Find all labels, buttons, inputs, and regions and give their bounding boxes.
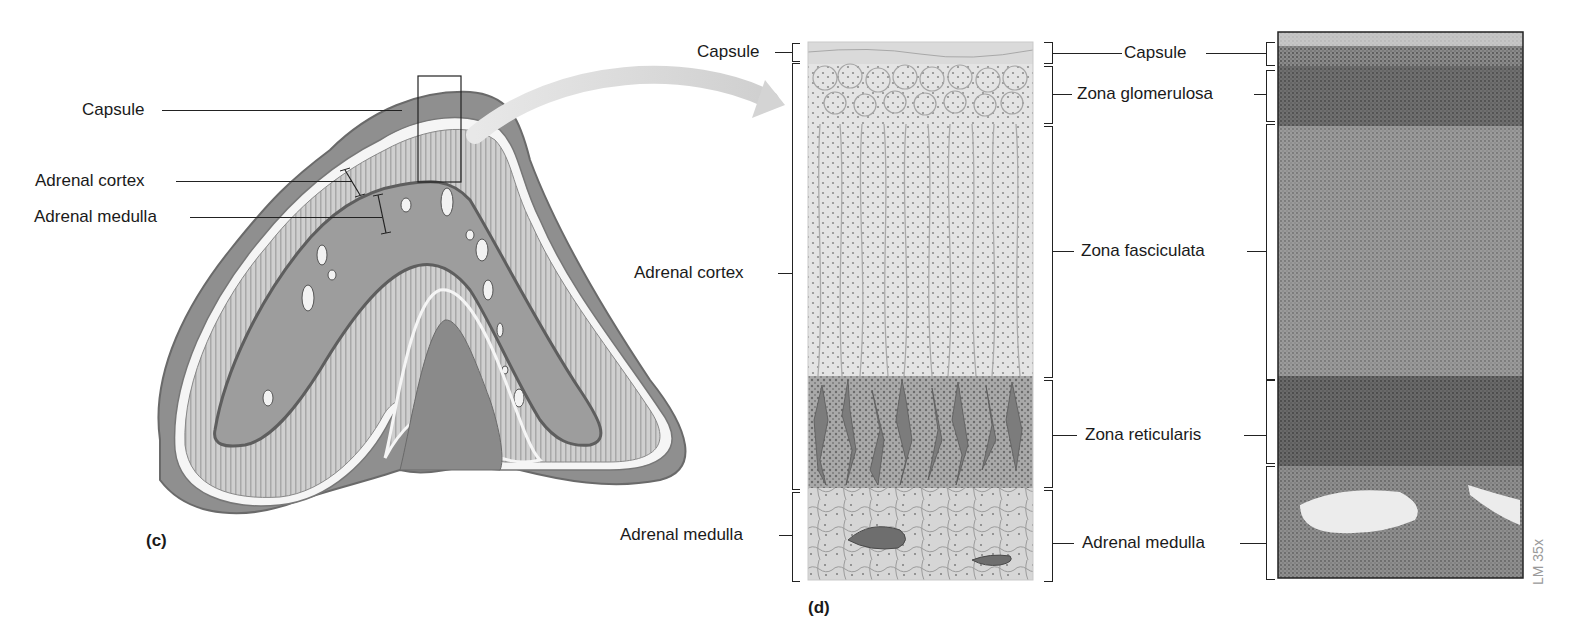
label-capsule-zone: Capsule <box>1124 43 1186 63</box>
bracket-glomerulosa-drawing <box>1044 66 1053 124</box>
bracket-medulla-left <box>792 492 800 582</box>
label-capsule-c: Capsule <box>82 100 144 120</box>
leader-fasciculata-a <box>1052 251 1074 252</box>
leader-line-cortex-c <box>176 181 352 182</box>
panel-letter-d: (d) <box>808 598 830 618</box>
leader-line-medulla-c <box>190 217 382 218</box>
tick-capsule-left <box>775 52 792 53</box>
label-zona-reticularis: Zona reticularis <box>1085 425 1201 445</box>
label-zona-glomerulosa: Zona glomerulosa <box>1077 84 1213 104</box>
label-adrenal-cortex-c: Adrenal cortex <box>35 171 145 191</box>
label-adrenal-cortex-d: Adrenal cortex <box>634 263 744 283</box>
label-adrenal-medulla-zone: Adrenal medulla <box>1082 533 1205 553</box>
leader-glomerulosa-b <box>1254 94 1266 95</box>
label-capsule-d-left: Capsule <box>697 42 759 62</box>
magnification-label: LM 35x <box>1530 539 1546 585</box>
label-adrenal-medulla-d-left: Adrenal medulla <box>620 525 743 545</box>
label-zona-fasciculata: Zona fasciculata <box>1081 241 1205 261</box>
bracket-capsule-micro <box>1266 42 1275 66</box>
light-micrograph <box>1278 32 1523 578</box>
bracket-cortex-left <box>792 63 800 490</box>
leader-reticularis-a <box>1052 435 1077 436</box>
bracket-medulla-micro <box>1266 466 1275 580</box>
bracket-fasciculata-micro <box>1266 124 1275 380</box>
gland-cross-section <box>158 76 685 513</box>
leader-medulla-zone-a <box>1052 543 1074 544</box>
leader-glomerulosa-a <box>1052 94 1072 95</box>
panel-letter-c: (c) <box>146 531 167 551</box>
bracket-reticularis-drawing <box>1044 380 1053 488</box>
leader-capsule-zone-b <box>1206 53 1266 54</box>
bracket-reticularis-micro <box>1266 380 1275 464</box>
leader-line-capsule-c <box>162 110 402 111</box>
label-adrenal-medulla-c: Adrenal medulla <box>34 207 157 227</box>
bracket-fasciculata-drawing <box>1044 126 1053 378</box>
leader-medulla-zone-b <box>1240 543 1266 544</box>
leader-reticularis-b <box>1244 435 1266 436</box>
bracket-glomerulosa-micro <box>1266 70 1275 122</box>
illustration-layer <box>0 0 1577 642</box>
tick-cortex-left <box>778 273 792 274</box>
bracket-capsule-left <box>792 43 800 62</box>
histology-illustration <box>808 42 1033 580</box>
tick-medulla-left <box>779 535 792 536</box>
bracket-medulla-drawing <box>1044 490 1053 582</box>
leader-fasciculata-b <box>1247 251 1266 252</box>
leader-capsule-zone-a <box>1052 53 1122 54</box>
